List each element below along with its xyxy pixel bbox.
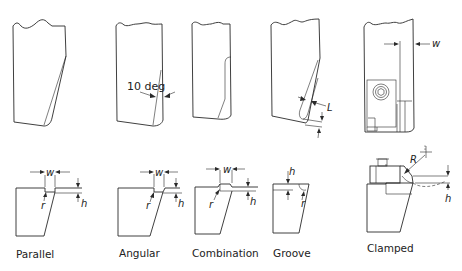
profile-clamped: R h Clamped — [367, 146, 451, 254]
groove-h-label: h — [289, 166, 295, 177]
top-tool-clamped: w — [364, 19, 441, 150]
parallel-h-label: h — [81, 198, 87, 209]
caption-clamped: Clamped — [367, 242, 414, 254]
angular-h-label: h — [178, 198, 184, 209]
angle-arrow-right-icon — [164, 93, 170, 98]
caption-parallel: Parallel — [16, 248, 54, 260]
combination-r-label: r — [209, 199, 214, 210]
caption-groove: Groove — [273, 247, 311, 259]
parallel-r-label: r — [41, 200, 46, 211]
caption-angular: Angular — [119, 247, 161, 259]
angular-w-label: w — [155, 167, 164, 178]
angle-arrow-left-icon — [150, 93, 156, 98]
groove-length-label: L — [327, 102, 333, 113]
combination-h-label: h — [250, 196, 256, 207]
clamped-h-label: h — [445, 193, 451, 204]
angle-label: 10 deg — [127, 80, 165, 93]
combination-w-label: w — [223, 164, 232, 175]
top-tool-parallel — [13, 20, 66, 126]
profile-combination: w h r Combination — [192, 164, 259, 259]
clamped-width-label: w — [432, 38, 441, 49]
top-tool-groove: L — [271, 19, 333, 138]
clamped-R-label: R — [410, 154, 417, 165]
parallel-w-label: w — [46, 167, 55, 178]
top-tool-combination — [192, 22, 231, 119]
chip-breaker-diagram: 10 deg L — [0, 0, 462, 271]
profile-parallel: w h r Parallel — [16, 167, 87, 260]
profile-groove: h r Groove — [273, 166, 311, 259]
caption-combination: Combination — [192, 247, 259, 259]
profile-angular: w h r Angular — [118, 167, 184, 259]
top-tool-angular: 10 deg — [116, 23, 175, 126]
